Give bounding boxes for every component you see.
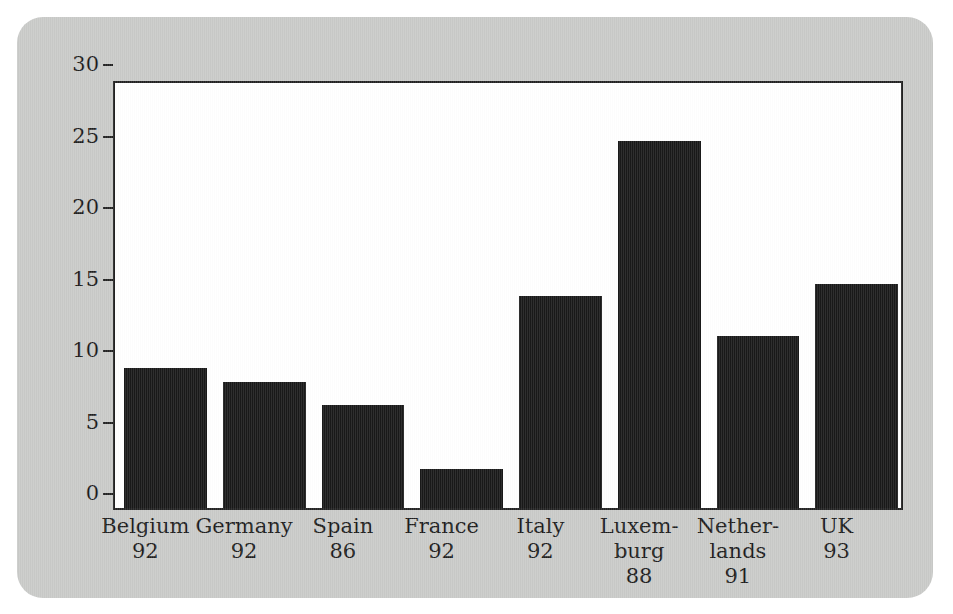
y-axis-tick-mark	[103, 279, 113, 281]
y-axis-tick-mark	[103, 350, 113, 352]
bar	[124, 368, 207, 508]
bar	[815, 284, 898, 509]
y-axis-tick-mark	[103, 64, 113, 66]
y-axis-tick-label: 0	[86, 481, 99, 505]
y-axis-tick-mark	[103, 207, 113, 209]
y-axis-tick-mark	[103, 422, 113, 424]
bar	[519, 296, 602, 508]
bar	[717, 336, 800, 508]
bar	[420, 469, 503, 508]
x-axis-category-label: France 92	[392, 514, 491, 564]
x-axis-category-label: Spain 86	[294, 514, 393, 564]
plot-area	[113, 81, 903, 510]
x-axis-category-label: Italy 92	[491, 514, 590, 564]
x-axis-category-label: Nether- lands 91	[689, 514, 788, 589]
x-axis-category-label: Belgium 92	[96, 514, 195, 564]
y-axis-tick-label: 30	[72, 52, 99, 76]
chart-panel: 051015202530 Belgium 92Germany 92Spain 8…	[17, 17, 933, 598]
x-axis-category-label: Germany 92	[195, 514, 294, 564]
y-axis-tick-label: 25	[72, 124, 99, 148]
bar	[322, 405, 405, 508]
y-axis-tick-label: 10	[72, 338, 99, 362]
y-axis-tick-label: 5	[86, 410, 99, 434]
y-axis-tick-label: 15	[72, 267, 99, 291]
bar	[618, 141, 701, 509]
y-axis-tick-mark	[103, 136, 113, 138]
y-axis-tick-label: 20	[72, 195, 99, 219]
x-axis-category-label: UK 93	[787, 514, 886, 564]
x-axis-category-label: Luxem- burg 88	[590, 514, 689, 589]
y-axis-tick-mark	[103, 493, 113, 495]
bar	[223, 382, 306, 508]
